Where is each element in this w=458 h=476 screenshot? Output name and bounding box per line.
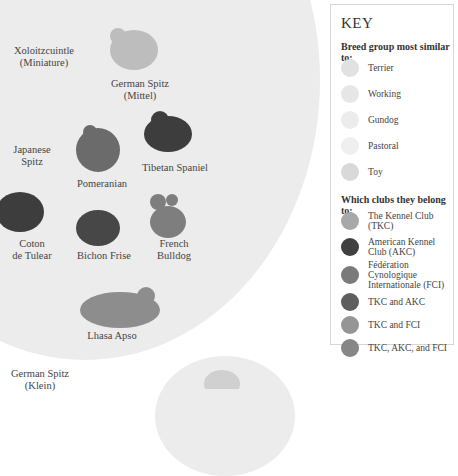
swatch-icon — [341, 59, 359, 77]
swatch-icon — [341, 85, 359, 103]
key-group-pastoral: Pastoral — [341, 137, 453, 155]
key-group-working: Working — [341, 85, 453, 103]
swatch-icon — [341, 266, 359, 284]
label-german-spitz-mittel: German Spitz(Mittel) — [100, 78, 180, 102]
tibetan-spaniel-silhouette-icon — [140, 108, 196, 158]
key-club-tkc: The Kennel Club (TKC) — [341, 212, 453, 230]
swatch-icon — [341, 212, 359, 230]
swatch-icon — [341, 137, 359, 155]
coton-de-tulear-silhouette-icon — [0, 186, 48, 236]
key-club-tkc-fci: TKC and FCI — [341, 316, 453, 334]
pomeranian-silhouette-icon — [70, 122, 124, 178]
key-club-fci: Fédération CynologiqueInternationale (FC… — [341, 264, 453, 286]
terrier-silhouette-icon — [196, 366, 246, 389]
label-german-spitz-klein: German Spitz(Klein) — [2, 368, 78, 392]
key-club-tkc-akc: TKC and AKC — [341, 293, 453, 311]
label-tibetan-spaniel: Tibetan Spaniel — [130, 162, 220, 174]
key-club-akc: American Kennel Club (AKC) — [341, 238, 453, 256]
swatch-icon — [341, 339, 359, 357]
key-group-terrier: Terrier — [341, 59, 453, 77]
label-japanese-spitz: JapaneseSpitz — [2, 144, 62, 168]
label-coton-de-tulear: Cotonde Tulear — [2, 238, 62, 262]
lhasa-apso-silhouette-icon — [74, 284, 164, 330]
key-club-tkc-akc-fci: TKC, AKC, and FCI — [341, 339, 453, 357]
label-pomeranian: Pomeranian — [62, 178, 142, 190]
label-xoloitzcuintle: Xoloitzcuintle(Miniature) — [2, 45, 86, 69]
swatch-icon — [341, 163, 359, 181]
key-group-gundog: Gundog — [341, 111, 453, 129]
key-group-toy: Toy — [341, 163, 453, 181]
key-title: KEY — [341, 15, 373, 32]
bichon-frise-silhouette-icon — [72, 204, 124, 250]
swatch-icon — [341, 293, 359, 311]
swatch-icon — [341, 316, 359, 334]
label-lhasa-apso: Lhasa Apso — [72, 330, 152, 342]
label-bichon-frise: Bichon Frise — [66, 250, 142, 262]
swatch-icon — [341, 111, 359, 129]
key-panel: KEY Breed group most similar to: Terrier… — [330, 4, 454, 345]
german-spitz-mittel-silhouette-icon — [104, 24, 162, 76]
french-bulldog-silhouette-icon — [146, 192, 192, 242]
swatch-icon — [341, 238, 359, 256]
